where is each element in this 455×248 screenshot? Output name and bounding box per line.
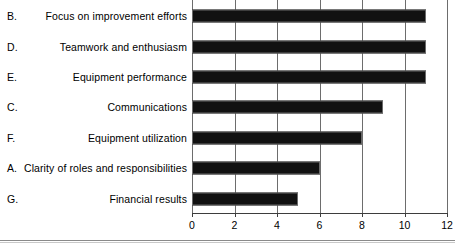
row-key: C.: [7, 101, 18, 113]
tick-mark-4: [277, 213, 278, 217]
bar-track: [192, 71, 426, 84]
tick-mark-2: [235, 213, 236, 217]
bar-row: D.Teamwork and enthusiasm: [0, 31, 455, 62]
x-tick-label: 12: [441, 219, 453, 231]
bar-row: C.Communications: [0, 92, 455, 123]
x-tick-label: 6: [317, 219, 323, 231]
x-tick-label: 8: [359, 219, 365, 231]
row-key: B.: [7, 10, 17, 22]
bar-track: [192, 192, 298, 205]
row-key: A.: [7, 162, 17, 174]
row-label: Equipment performance: [73, 71, 187, 83]
footer-divider-shadow: [0, 242, 455, 243]
bar: [192, 192, 298, 205]
bar-row: G.Financial results: [0, 183, 455, 214]
row-label: Equipment utilization: [88, 132, 187, 144]
bar-track: [192, 10, 426, 23]
row-label: Focus on improvement efforts: [46, 10, 188, 22]
row-key: F.: [7, 132, 15, 144]
row-key: E.: [7, 71, 17, 83]
x-tick-label: 4: [274, 219, 280, 231]
row-label: Clarity of roles and responsibilities: [24, 162, 187, 174]
bar: [192, 101, 383, 114]
bar-rows: B.Focus on improvement effortsD.Teamwork…: [0, 0, 455, 213]
bar-row: E.Equipment performance: [0, 62, 455, 93]
x-tick-label: 0: [189, 219, 195, 231]
bar: [192, 10, 426, 23]
bar: [192, 162, 320, 175]
bar: [192, 71, 426, 84]
tick-mark-6: [320, 213, 321, 217]
bar-chart-figure: B.Focus on improvement effortsD.Teamwork…: [0, 0, 455, 248]
tick-mark-10: [405, 213, 406, 217]
bar: [192, 40, 426, 53]
bar: [192, 131, 362, 144]
bar-row: B.Focus on improvement efforts: [0, 1, 455, 32]
row-label: Communications: [107, 101, 187, 113]
bar-track: [192, 131, 362, 144]
tick-mark-12: [447, 213, 448, 217]
row-label: Financial results: [109, 193, 187, 205]
tick-mark-8: [362, 213, 363, 217]
x-tick-label: 2: [232, 219, 238, 231]
bar-track: [192, 40, 426, 53]
row-key: G.: [7, 193, 18, 205]
tick-mark-0: [192, 213, 193, 217]
bar-row: F.Equipment utilization: [0, 123, 455, 154]
x-tick-label: 10: [399, 219, 411, 231]
bar-track: [192, 162, 320, 175]
row-label: Teamwork and enthusiasm: [60, 41, 187, 53]
footer-divider: [0, 240, 455, 241]
row-key: D.: [7, 41, 18, 53]
bar-row: A.Clarity of roles and responsibilities: [0, 153, 455, 184]
bar-track: [192, 101, 383, 114]
